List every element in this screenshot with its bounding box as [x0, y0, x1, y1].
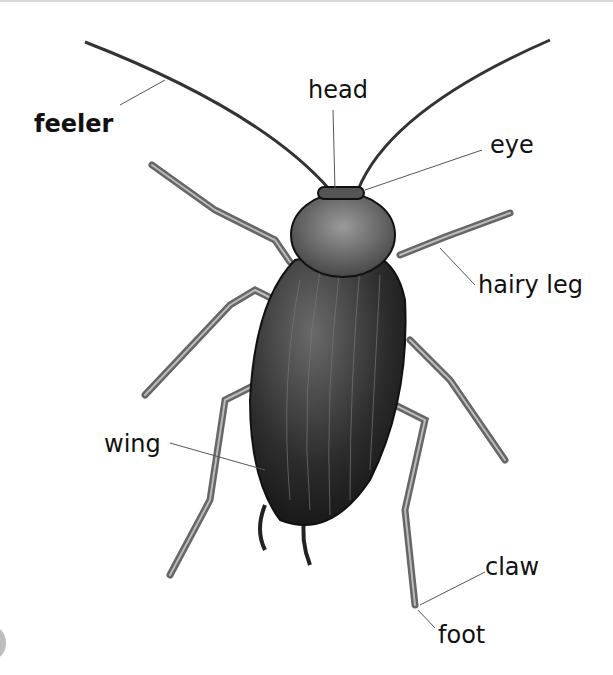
label-claw: claw [485, 555, 539, 579]
label-hairy-leg: hairy leg [478, 273, 583, 297]
label-foot: foot [438, 623, 485, 647]
left-feeler [85, 42, 330, 190]
head-shape [291, 193, 395, 277]
right-feeler [358, 40, 550, 190]
label-eye: eye [490, 133, 534, 157]
label-feeler: feeler [34, 112, 113, 136]
wing-shape [250, 250, 406, 525]
label-wing: wing [104, 432, 161, 456]
label-head: head [308, 78, 368, 102]
